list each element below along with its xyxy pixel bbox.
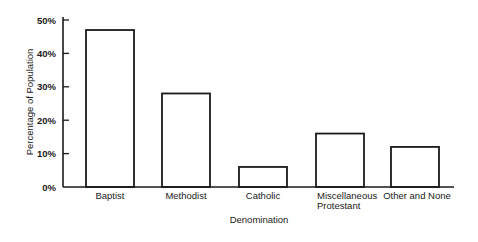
bar-catholic: [239, 167, 287, 187]
y-tick-label: 0%: [42, 182, 56, 193]
y-tick-label: 50%: [37, 15, 57, 26]
bar-methodist: [162, 93, 210, 187]
y-tick-label: 40%: [37, 48, 57, 59]
x-tick-label: Catholic: [246, 190, 281, 201]
y-tick-label: 20%: [37, 115, 57, 126]
bar-other-and-none: [391, 147, 439, 187]
x-tick-label: Protestant: [317, 200, 361, 211]
x-axis-labels: BaptistMethodistCatholicMiscellaneousPro…: [95, 190, 450, 211]
x-tick-label: Baptist: [95, 190, 124, 201]
y-axis-ticks: 0%10%20%30%40%50%: [37, 15, 69, 193]
y-tick-label: 10%: [37, 148, 57, 159]
bar-baptist: [86, 30, 134, 187]
x-tick-label: Methodist: [165, 190, 207, 201]
x-axis-title: Denomination: [230, 214, 289, 225]
y-axis-title: Percentage of Population: [24, 49, 35, 156]
y-tick-label: 30%: [37, 81, 57, 92]
bar-chart: 0%10%20%30%40%50% BaptistMethodistCathol…: [0, 0, 478, 242]
x-tick-label: Other and None: [383, 190, 451, 201]
bars: [86, 30, 439, 187]
bar-miscellaneous-protestant: [316, 134, 364, 187]
